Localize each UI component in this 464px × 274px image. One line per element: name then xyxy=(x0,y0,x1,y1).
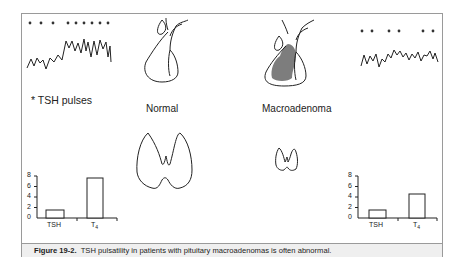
tsh-waveform-macroadenoma xyxy=(361,50,438,67)
figure-graphics xyxy=(0,0,464,274)
bar-tsh-normal xyxy=(46,210,64,218)
bar-t4-macroadenoma xyxy=(409,194,425,218)
tsh-pulses-legend: * TSH pulses xyxy=(31,94,92,106)
label-normal: Normal xyxy=(146,103,178,114)
category-t4-normal: T4 xyxy=(91,221,98,230)
bar-tsh-macroadenoma xyxy=(369,210,386,218)
bar-chart-normal xyxy=(34,176,117,221)
bar-t4-normal xyxy=(87,178,103,218)
thyroid-macroadenoma-icon xyxy=(276,148,298,170)
category-tsh-macroadenoma: TSH xyxy=(369,221,383,228)
pituitary-normal-icon xyxy=(145,18,188,82)
thyroid-normal-icon xyxy=(137,133,192,188)
label-macroadenoma: Macroadenoma xyxy=(262,103,331,114)
tsh-pulse-markers-normal xyxy=(29,22,110,25)
tsh-waveform-normal xyxy=(27,39,111,69)
tsh-pulse-markers-macroadenoma xyxy=(361,30,435,33)
pituitary-macroadenoma-icon xyxy=(265,20,314,86)
bar-chart-macroadenoma xyxy=(355,176,437,221)
category-t4-macroadenoma: T4 xyxy=(413,221,420,230)
category-tsh-normal: TSH xyxy=(47,221,61,228)
